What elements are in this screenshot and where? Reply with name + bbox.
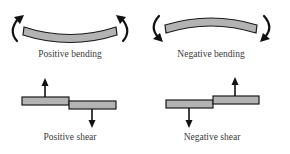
positive-bending-label: Positive bending [38,49,102,59]
down-arrow-icon [186,108,193,128]
negative-bending-label: Negative bending [177,49,245,59]
moment-arrow-right-icon [260,16,270,42]
right-segment [213,96,259,104]
left-segment [22,97,69,105]
up-arrow-icon [232,77,239,96]
positive-shear-label: Positive shear [43,132,97,142]
moment-arrow-left-icon [13,15,24,41]
positive-shear-panel: Positive shear [22,78,116,142]
up-arrow-icon [42,78,49,97]
right-segment [69,101,116,109]
moment-arrow-left-icon [153,16,163,42]
down-arrow-icon [89,109,96,128]
negative-shear-panel: Negative shear [166,77,259,142]
negative-bending-panel: Negative bending [153,16,270,59]
negative-bending-beam [165,18,257,33]
moment-arrow-right-icon [116,15,127,41]
left-segment [166,100,213,108]
positive-bending-beam [23,27,117,43]
positive-bending-panel: Positive bending [13,15,128,59]
negative-shear-label: Negative shear [184,132,242,142]
sign-convention-diagram: Positive bending Negative bending Positi… [0,0,290,154]
